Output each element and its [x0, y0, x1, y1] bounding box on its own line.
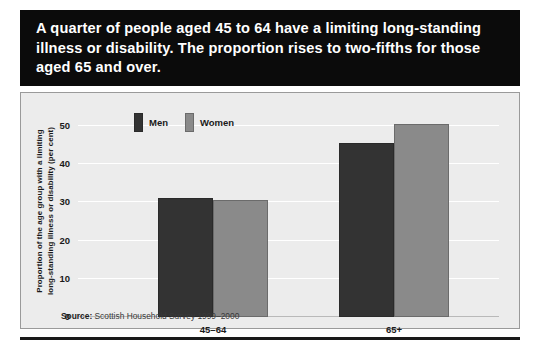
page-title: A quarter of people aged 45 to 64 have a… [36, 19, 504, 78]
chart-panel: Proportion of the age group with a limit… [20, 92, 520, 329]
legend-swatch-men-icon [134, 113, 143, 132]
source-text: Scottish Household Survey 1999–2000 [95, 311, 240, 321]
legend-swatch-women-icon [185, 113, 194, 132]
ytick-label-20: 20 [59, 234, 70, 245]
bar-women-65-plus [394, 124, 449, 317]
title-banner: A quarter of people aged 45 to 64 have a… [20, 10, 520, 86]
bottom-rule [20, 337, 520, 340]
bar-men-65-plus [339, 143, 394, 317]
source-label: Source: [61, 311, 92, 321]
source-line: Source: Scottish Household Survey 1999–2… [61, 311, 239, 321]
y-axis-title: Proportion of the age group with a limit… [35, 105, 65, 317]
ytick-label-10: 10 [59, 272, 70, 283]
x-axis-label-45-64: 45–64 [200, 324, 226, 335]
figure: A quarter of people aged 45 to 64 have a… [20, 10, 520, 340]
bar-men-45-64 [158, 198, 213, 317]
legend-item-men: Men [134, 113, 168, 132]
legend-label-men: Men [149, 117, 168, 128]
plot-area: 0 10 20 30 40 50 45–64 65+ [78, 105, 499, 317]
legend-label-women: Women [200, 117, 234, 128]
legend-item-women: Women [185, 113, 234, 132]
bar-women-45-64 [213, 200, 268, 317]
ytick-label-40: 40 [59, 158, 70, 169]
x-axis-label-65-plus: 65+ [386, 324, 402, 335]
legend: Men Women [134, 113, 234, 132]
ytick-label-30: 30 [59, 196, 70, 207]
ytick-label-50: 50 [59, 120, 70, 131]
